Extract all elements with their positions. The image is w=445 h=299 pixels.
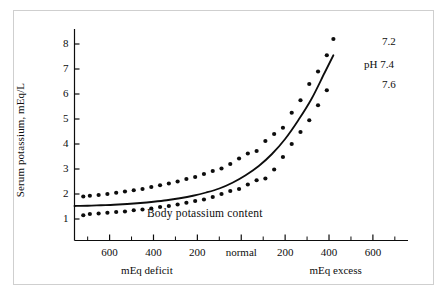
y-axis-tick-label: 3 [53,162,69,174]
series-1 [75,55,334,206]
series-0 [81,37,335,199]
x-axis-group-label: mEq excess [309,264,361,276]
x-axis-tick-label: 200 [189,246,206,258]
y-axis-tick-label: 6 [53,87,69,99]
x-axis-tick-label: 400 [145,246,162,258]
y-axis-tick-label: 5 [53,112,69,124]
data-series [75,37,336,217]
y-axis-tick-label: 7 [53,62,69,74]
x-axis-tick-label: 200 [277,246,294,258]
x-axis-group-label: mEq deficit [121,264,173,276]
x-axis-tick-label: 600 [101,246,118,258]
series-label-ph-7-6: 7.6 [382,78,396,90]
series-2 [81,88,329,217]
x-axis-tick-label: 400 [321,246,338,258]
y-axis-tick-label: 1 [53,212,69,224]
series-label-ph-7-2: 7.2 [382,35,396,47]
series-label-ph-7-4: pH 7.4 [364,58,394,70]
x-axis-inner-label: Body potassium content [147,207,263,219]
chart-figure: Serum potassium, mEq/L 12345678 60040020… [0,0,445,299]
x-axis-tick-label: 600 [365,246,382,258]
y-axis-label: Serum potassium, mEq/L [14,60,26,220]
x-axis-tick-label: normal [226,246,257,258]
y-axis-tick-label: 8 [53,37,69,49]
y-axis-tick-label: 4 [53,137,69,149]
y-axis-tick-label: 2 [53,187,69,199]
